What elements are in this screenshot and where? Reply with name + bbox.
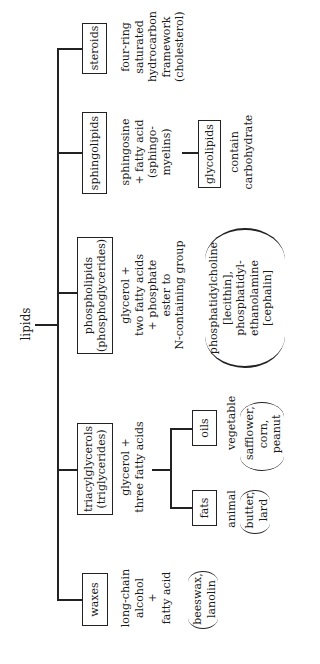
triacylglycerols-description: glycerol + three fatty acids [119, 419, 146, 515]
phospholipids-branch [57, 292, 77, 294]
phospholipids-examples: phosphatidylcholine [lecithin], phosphat… [207, 236, 275, 360]
tg-children-stub [152, 469, 171, 471]
fats-label: fats [198, 492, 211, 524]
glycolipids-label: glycolipids [203, 122, 216, 186]
tg-children-bar [170, 428, 172, 508]
triacylglycerols-branch [57, 469, 77, 471]
triacylglycerols-label: triacylglycerols (triglycerides) [82, 425, 108, 513]
glycolipids-description: contain carbohydrate [228, 114, 255, 190]
fats-examples: butter, lard [243, 490, 270, 530]
oils-examples: safflower, corn, peanut [243, 408, 284, 460]
phospholipids-description: glycerol + two fatty acids + phosphate e… [119, 235, 187, 355]
steroids-description: four-ring saturated hydrocarbon framewor… [119, 12, 187, 82]
fats-branch [170, 507, 192, 509]
phospholipids-label: phospholipids (phosphoglycerides) [82, 239, 108, 352]
oils-label: oils [198, 412, 211, 444]
oils-description: vegetable [225, 404, 239, 450]
fats-description: animal [225, 488, 239, 530]
waxes-label: waxes [88, 575, 101, 624]
steroids-branch [57, 48, 82, 50]
glycolipids-branch [182, 152, 198, 154]
steroids-label: steroids [88, 23, 101, 73]
sphingolipids-description: sphingosine + fatty acid (sphingo- myeli… [119, 114, 173, 190]
root-label: lipids [20, 303, 34, 345]
root-connector [35, 324, 58, 326]
waxes-branch [57, 599, 82, 601]
sphingolipids-label: sphingolipids [88, 114, 101, 192]
sphingolipids-branch [57, 152, 82, 154]
oils-branch [170, 428, 192, 430]
waxes-description: long-chain alcohol + fatty acid [119, 564, 173, 632]
waxes-examples: beeswax, lanolin [191, 572, 218, 626]
